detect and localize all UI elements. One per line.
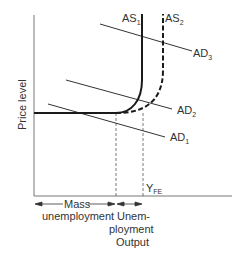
diagram-canvas: Price level AS1 AS2 AD3 AD2 AD1 YFE Ma: [0, 0, 242, 256]
unemployment-label-2: ployment: [109, 223, 154, 235]
as1-label: AS1: [122, 12, 141, 26]
as-ad-diagram: Price level AS1 AS2 AD3 AD2 AD1 YFE Ma: [0, 0, 242, 256]
y-axis-title: Price level: [16, 79, 28, 130]
ad3-label: AD3: [193, 47, 212, 61]
as1-curve: [34, 14, 142, 113]
ad2-label: AD2: [177, 104, 196, 118]
unemployment-arrow: [117, 202, 142, 206]
unemployment-label-1: Unem-: [117, 210, 150, 222]
ad2-line: [66, 80, 172, 109]
ad3-line: [100, 24, 192, 51]
ad1-line: [48, 104, 165, 137]
x-axis-title: Output: [116, 236, 149, 248]
ad1-label: AD1: [170, 131, 189, 145]
yfe-label: YFE: [146, 182, 163, 195]
mass-unemployment-label: unemployment: [42, 210, 114, 222]
mass-label: Mass: [64, 198, 91, 210]
as2-label: AS2: [165, 12, 184, 26]
